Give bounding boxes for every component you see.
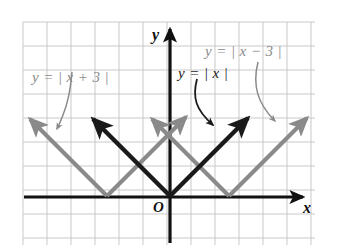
equation-label-right: y = | x − 3 | [205,44,282,59]
y-axis-label: y [152,27,159,43]
graph-canvas [0,0,341,250]
absolute-value-graph-figure: y = | x + 3 | y = | x | y = | x − 3 | y … [0,0,341,250]
equation-label-center: y = | x | [178,66,228,81]
x-axis-label: x [303,200,311,216]
equation-label-left: y = | x + 3 | [32,70,109,85]
origin-label: O [153,200,164,215]
